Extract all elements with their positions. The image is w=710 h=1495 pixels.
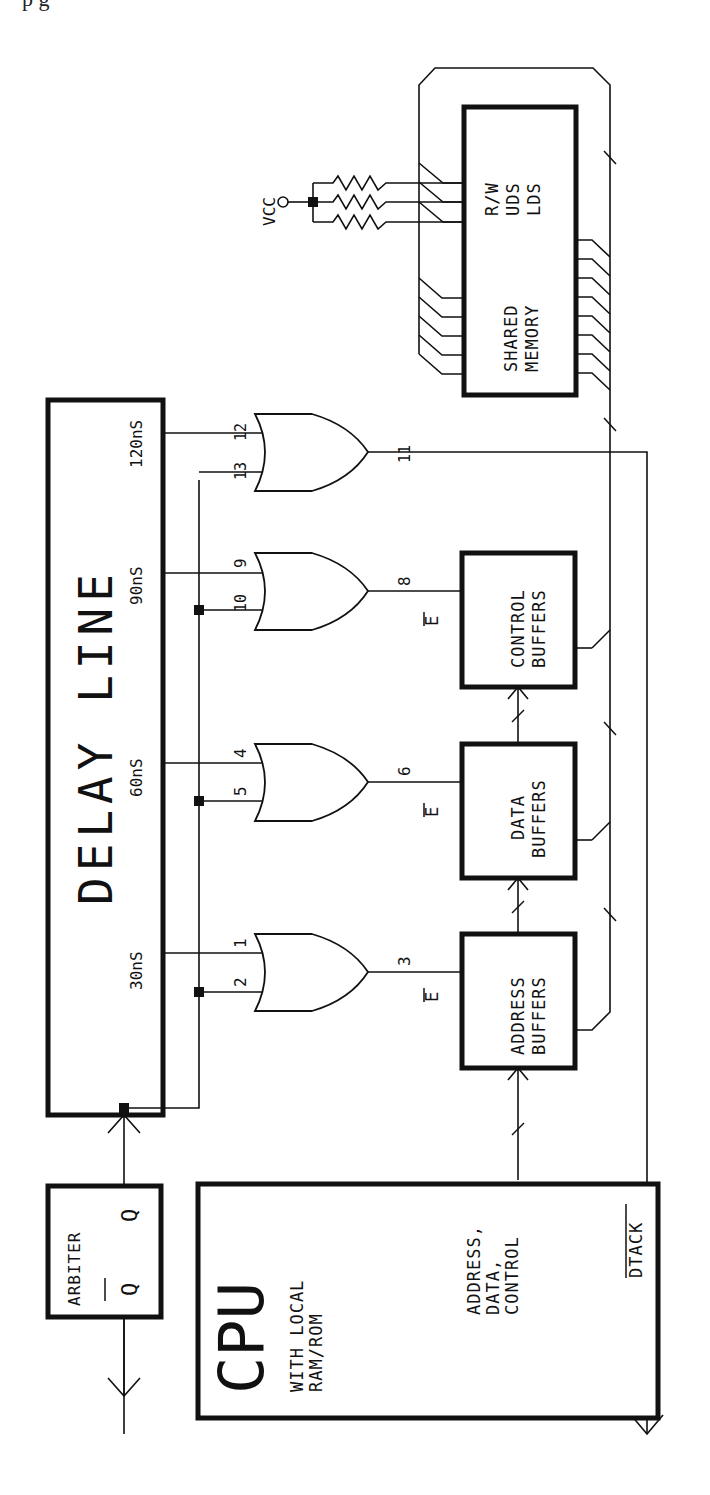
pin-3: 3: [395, 956, 414, 966]
cpu-title: CPU: [205, 1282, 278, 1394]
address-buffers-line1: ADDRESS: [508, 976, 528, 1055]
tap-label-60: 60nS: [127, 758, 146, 797]
enable-bar-label-3: E: [422, 612, 442, 626]
control-buffers-line2: BUFFERS: [529, 589, 549, 668]
pullup-resistors: VCC: [260, 163, 464, 229]
schematic-diagram: DELAY LINE 30nS 60nS 90nS 120nS 1 2 3 4 …: [0, 0, 710, 1495]
signal-rw: R/W: [482, 182, 502, 216]
pin-1: 1: [231, 938, 250, 948]
svg-text:DTACK: DTACK: [626, 1222, 646, 1278]
tap-label-30: 30nS: [127, 951, 146, 990]
pin-8: 8: [395, 576, 414, 586]
arbiter-q-output: Q: [117, 1209, 142, 1222]
vcc-terminal-icon: [278, 197, 288, 207]
memory-line1: SHARED: [501, 305, 521, 372]
address-buffers-line2: BUFFERS: [529, 976, 549, 1055]
pin-13: 13: [232, 462, 250, 480]
pin-11: 11: [396, 445, 414, 463]
svg-text:Q: Q: [117, 1283, 142, 1296]
control-buffers-line1: CONTROL: [508, 589, 528, 668]
signal-lds: LDS: [524, 182, 544, 216]
cpu-bus-label-1: ADDRESS,: [464, 1225, 484, 1315]
enable-bar-label-2: E: [422, 803, 442, 817]
cpu-bus-label-2: DATA,: [483, 1259, 503, 1315]
cpu-subtitle-1: WITH LOCAL: [287, 1280, 307, 1392]
pin-2: 2: [231, 977, 250, 987]
cpu-subtitle-2: RAM/ROM: [306, 1313, 326, 1392]
data-buffers-line2: BUFFERS: [529, 779, 549, 858]
pin-4: 4: [231, 748, 250, 758]
cpu-bus-label-3: CONTROL: [502, 1236, 522, 1315]
enable-bar-label-1: E: [422, 988, 442, 1002]
data-buffers-line1: DATA: [508, 795, 528, 840]
svg-text:E: E: [422, 807, 442, 817]
signal-uds: UDS: [503, 182, 523, 216]
tap-label-90: 90nS: [127, 566, 146, 605]
pin-9: 9: [231, 558, 250, 568]
tap-label-120: 120nS: [127, 420, 146, 468]
svg-text:Q: Q: [117, 1209, 142, 1222]
or-gate-4: [255, 414, 368, 491]
pin-10: 10: [232, 594, 250, 612]
vcc-label: VCC: [260, 197, 279, 226]
or-gate-3: [255, 553, 368, 630]
svg-text:E: E: [422, 616, 442, 626]
pin-6: 6: [395, 766, 414, 776]
memory-line2: MEMORY: [522, 305, 542, 372]
pin-5: 5: [231, 786, 250, 796]
svg-text:E: E: [422, 992, 442, 1002]
or-gate-2: [255, 744, 368, 821]
delay-line-title: DELAY LINE: [69, 568, 123, 905]
pin-12: 12: [232, 423, 250, 441]
arbiter-title: ARBITER: [65, 1232, 84, 1306]
or-gate-1: [255, 934, 368, 1011]
